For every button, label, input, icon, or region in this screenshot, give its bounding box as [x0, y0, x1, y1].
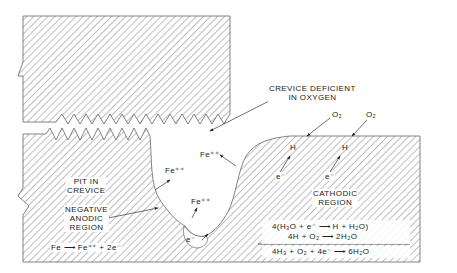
fe-upper-right-arrow	[220, 155, 236, 166]
label-cathodic-region: CATHODIC REGION	[312, 189, 358, 207]
label-fe-upper-right: Fe⁺⁺	[200, 150, 219, 159]
label-fe-middle-left: Fe⁺⁺	[165, 166, 184, 175]
label-line: NEGATIVE	[65, 205, 108, 214]
label-line: REGION	[313, 198, 357, 207]
label-line: REGION	[65, 223, 108, 232]
label-e-right: e⁻	[324, 172, 335, 181]
label-e-pit: e⁻	[186, 235, 195, 244]
equation-line-1: 4(H₃O + e⁻ ⟶ H + H₂O)	[272, 222, 368, 231]
label-o2-right: O₂	[365, 110, 377, 119]
label-line: CREVICE	[67, 186, 105, 195]
label-line: CATHODIC	[313, 189, 357, 198]
label-anodic-reaction: Fe ⟶ Fe⁺⁺ + 2e⁻	[50, 243, 122, 252]
label-line: ANODIC	[65, 214, 108, 223]
label-h-left: H	[290, 143, 296, 152]
fe-lower-arrow	[192, 208, 197, 218]
label-line: IN OXYGEN	[269, 93, 356, 102]
label-line: CREVICE DEFICIENT	[269, 84, 356, 93]
label-fe-lower: Fe⁺⁺	[191, 197, 210, 206]
label-line: PIT IN	[67, 177, 105, 186]
label-pit-in-crevice: PIT IN CREVICE	[66, 177, 106, 195]
fe-middle-left-arrow	[155, 180, 170, 190]
upper-metal-plate	[18, 16, 230, 124]
label-o2-left: O₂	[331, 110, 343, 119]
o2-left-arrow	[307, 118, 330, 136]
equation-line-2: 4H + O₂ ⟶ 2H₂O	[288, 232, 357, 241]
diagram-canvas	[0, 0, 457, 273]
equation-sum: 4H₃ + O₂ + 4e⁻ ⟶ 6H₂O	[272, 247, 369, 256]
label-negative-anodic-region: NEGATIVE ANODIC REGION	[64, 205, 109, 232]
label-e-left: e⁻	[275, 172, 286, 181]
o2-right-arrow	[352, 120, 367, 136]
crevice-corrosion-diagram: CREVICE DEFICIENT IN OXYGEN O₂ O₂ H H e⁻…	[0, 0, 457, 273]
label-crevice-deficient: CREVICE DEFICIENT IN OXYGEN	[268, 84, 357, 102]
label-h-right: H	[342, 143, 348, 152]
